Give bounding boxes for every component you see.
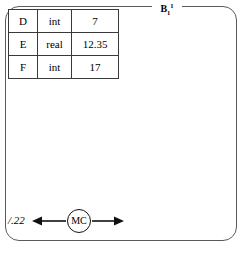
machine-control-row: /.22 MC xyxy=(8,204,138,238)
cell-type: int xyxy=(38,10,72,33)
cell-name: F xyxy=(9,56,38,79)
table-row: E real 12.35 xyxy=(9,33,119,56)
cell-name: D xyxy=(9,10,38,33)
arrow-left-icon xyxy=(32,217,66,226)
table-row: F int 17 xyxy=(9,56,119,79)
cell-value: 7 xyxy=(72,10,119,33)
block-label: B11 xyxy=(152,0,182,13)
cell-value: 17 xyxy=(72,56,119,79)
diagram-canvas: B11 D int 7 E real 12.35 F int 17 xyxy=(0,0,246,255)
cell-type: int xyxy=(38,56,72,79)
block-label-subscript: 1 xyxy=(167,9,170,16)
cell-name: E xyxy=(9,33,38,56)
table-row: D int 7 xyxy=(9,10,119,33)
arrow-right-icon xyxy=(92,217,124,226)
variable-table: D int 7 E real 12.35 F int 17 xyxy=(8,9,119,79)
cell-value: 12.35 xyxy=(72,33,119,56)
machine-control-node: MC xyxy=(67,209,91,233)
cell-type: real xyxy=(38,33,72,56)
control-left-label: /.22 xyxy=(8,213,25,227)
block-label-superscript: 1 xyxy=(170,2,173,9)
